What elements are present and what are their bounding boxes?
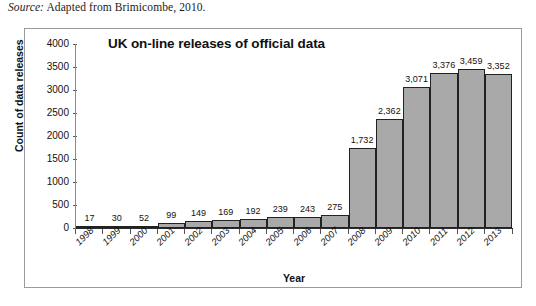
x-axis-title: Year (76, 272, 512, 284)
source-text: Adapted from Brimicombe, 2010. (44, 1, 206, 13)
bar[interactable] (403, 87, 430, 228)
bar-series: 173052991491691922392432751,7322,3623,07… (76, 44, 512, 228)
bar-value-label: 52 (139, 214, 149, 223)
y-axis-tick-labels: 40003500300025002000150010005000 (33, 44, 73, 228)
bar-slot: 169 (212, 44, 239, 228)
x-label-slot: 1999 (103, 236, 130, 270)
x-label-slot: 2002 (185, 236, 212, 270)
x-label-slot: 2005 (267, 236, 294, 270)
bar-value-label: 3,071 (405, 75, 428, 84)
y-tick-label: 1500 (47, 154, 73, 164)
x-tick-mark (157, 229, 158, 234)
bar-slot: 3,352 (485, 44, 512, 228)
bar-value-label: 275 (327, 203, 342, 212)
bar-value-label: 1,732 (351, 136, 374, 145)
source-label: Source: (8, 1, 44, 13)
x-tick-mark (184, 229, 185, 234)
bar-slot: 239 (267, 44, 294, 228)
bar-slot: 17 (76, 44, 103, 228)
source-caption: Source: Adapted from Brimicombe, 2010. (8, 1, 206, 13)
bar-value-label: 243 (300, 205, 315, 214)
bar[interactable] (349, 148, 376, 228)
x-tick-mark (102, 229, 103, 234)
x-tick-mark-end (512, 229, 513, 234)
y-tick-label: 500 (52, 200, 73, 210)
x-label-slot: 2006 (294, 236, 321, 270)
bar-value-label: 3,352 (487, 62, 510, 71)
x-label-slot: 2007 (321, 236, 348, 270)
bar-slot: 1,732 (349, 44, 376, 228)
x-label-slot: 2009 (376, 236, 403, 270)
x-tick-mark (402, 229, 403, 234)
x-tick-mark (320, 229, 321, 234)
y-tick-label: 2500 (47, 108, 73, 118)
y-tick-label: 0 (63, 223, 73, 233)
bar-slot: 3,459 (458, 44, 485, 228)
x-tick-mark (375, 229, 376, 234)
bar-slot: 3,071 (403, 44, 430, 228)
bar[interactable] (430, 73, 457, 228)
x-label-slot: 2004 (240, 236, 267, 270)
bar[interactable] (458, 69, 485, 228)
bar-slot: 192 (240, 44, 267, 228)
y-tick-label: 1000 (47, 177, 73, 187)
bar-slot: 243 (294, 44, 321, 228)
bar-value-label: 169 (218, 208, 233, 217)
x-tick-mark (239, 229, 240, 234)
x-label-slot: 2013 (485, 236, 512, 270)
x-tick-mark (211, 229, 212, 234)
y-tick-label: 2000 (47, 131, 73, 141)
bar-slot: 3,376 (430, 44, 457, 228)
bar-value-label: 149 (191, 209, 206, 218)
bar-value-label: 239 (273, 205, 288, 214)
bar-slot: 275 (321, 44, 348, 228)
plot-area: 173052991491691922392432751,7322,3623,07… (76, 44, 512, 228)
x-tick-mark (484, 229, 485, 234)
x-label-slot: 1998 (76, 236, 103, 270)
x-label-slot: 2011 (430, 236, 457, 270)
x-label-slot: 2010 (403, 236, 430, 270)
x-label-slot: 2000 (131, 236, 158, 270)
x-tick-mark (130, 229, 131, 234)
y-tick-label: 3500 (47, 62, 73, 72)
bar[interactable] (376, 119, 403, 228)
bar-value-label: 17 (85, 214, 95, 223)
y-tick-label: 3000 (47, 85, 73, 95)
bar-slot: 2,362 (376, 44, 403, 228)
bar-slot: 30 (103, 44, 130, 228)
x-tick-mark (293, 229, 294, 234)
bar-value-label: 3,376 (433, 61, 456, 70)
y-tick-label: 4000 (47, 39, 73, 49)
x-label-slot: 2008 (349, 236, 376, 270)
x-label-slot: 2012 (458, 236, 485, 270)
x-tick-mark (429, 229, 430, 234)
bar-slot: 99 (158, 44, 185, 228)
bar-value-label: 30 (112, 214, 122, 223)
bar-slot: 149 (185, 44, 212, 228)
x-tick-mark (75, 229, 76, 234)
bar-value-label: 99 (166, 211, 176, 220)
bar[interactable] (485, 74, 512, 228)
bar-value-label: 3,459 (460, 57, 483, 66)
x-axis-tick-labels: 1998199920002001200220032004200520062007… (76, 236, 512, 270)
bar-value-label: 192 (246, 207, 261, 216)
x-tick-mark (266, 229, 267, 234)
x-tick-mark (457, 229, 458, 234)
x-tick-mark (348, 229, 349, 234)
bar-slot: 52 (131, 44, 158, 228)
y-axis-title: Count of data releases (13, 56, 25, 152)
x-label-slot: 2003 (212, 236, 239, 270)
x-label-slot: 2001 (158, 236, 185, 270)
bar-value-label: 2,362 (378, 107, 401, 116)
